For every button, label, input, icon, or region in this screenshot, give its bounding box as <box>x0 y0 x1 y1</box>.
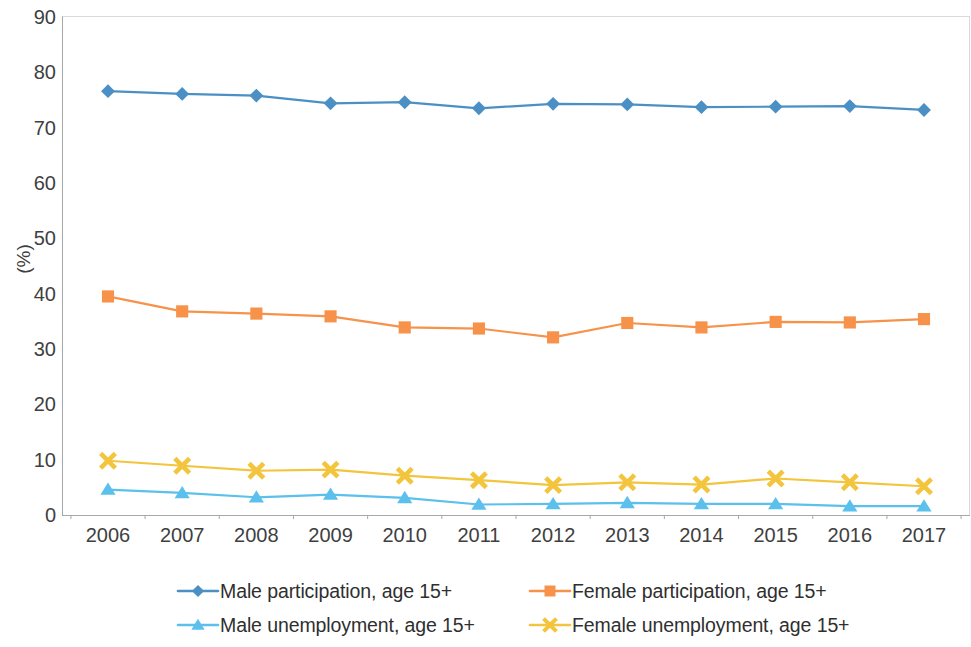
y-axis-tick-label: 40 <box>10 284 56 304</box>
y-axis-tick-label: 20 <box>10 394 56 414</box>
legend-item[interactable]: Female unemployment, age 15+ <box>528 612 916 638</box>
y-axis-tick-label: 90 <box>10 7 56 27</box>
legend-label: Male participation, age 15+ <box>220 580 452 603</box>
plot-area <box>62 14 970 519</box>
x-axis-tick-label: 2017 <box>879 524 969 546</box>
y-axis-tick-label: 50 <box>10 228 56 248</box>
y-axis-tick-label: 0 <box>10 505 56 525</box>
legend-item[interactable]: Male unemployment, age 15+ <box>176 612 528 638</box>
legend-label: Female unemployment, age 15+ <box>572 614 849 637</box>
square-marker-icon <box>528 581 572 601</box>
x-marker-icon <box>528 615 572 635</box>
legend-item[interactable]: Male participation, age 15+ <box>176 578 528 604</box>
line-chart: (%) 9080706050403020100 2006200720082009… <box>0 0 971 647</box>
y-axis-tick-label: 60 <box>10 173 56 193</box>
y-axis-tick-label: 80 <box>10 62 56 82</box>
chart-legend: Male participation, age 15+Female partic… <box>176 578 916 638</box>
y-axis-tick-label: 30 <box>10 339 56 359</box>
legend-label: Female participation, age 15+ <box>572 580 827 603</box>
plot-canvas <box>62 14 970 519</box>
y-axis-tick-label: 70 <box>10 118 56 138</box>
legend-item[interactable]: Female participation, age 15+ <box>528 578 916 604</box>
y-axis-tick-labels: 9080706050403020100 <box>0 0 56 540</box>
x-axis-tick-labels: 2006200720082009201020112012201320142015… <box>62 524 970 564</box>
legend-label: Male unemployment, age 15+ <box>220 614 475 637</box>
diamond-marker-icon <box>176 581 220 601</box>
triangle-marker-icon <box>176 615 220 635</box>
y-axis-tick-label: 10 <box>10 450 56 470</box>
